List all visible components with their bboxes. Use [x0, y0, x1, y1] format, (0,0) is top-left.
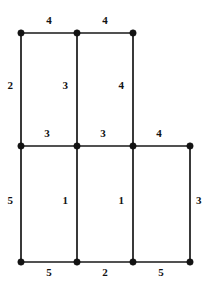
- edge-weight-i-j: 2: [85, 267, 125, 278]
- edge-weight-g-k: 3: [196, 195, 202, 206]
- edge-weight-j-k: 5: [141, 267, 181, 278]
- edge-weight-e-i: 1: [38, 195, 68, 206]
- edge-weight-f-g: 4: [139, 128, 179, 139]
- edge-weight-h-i: 5: [29, 267, 69, 278]
- graph-node-g: [187, 143, 193, 149]
- edge-weight-d-e: 3: [27, 128, 67, 139]
- graph-node-j: [130, 259, 136, 265]
- graph-node-a: [18, 30, 24, 36]
- edge-weight-a-b: 4: [29, 15, 69, 26]
- graph-node-i: [74, 259, 80, 265]
- graph-node-f: [130, 143, 136, 149]
- edge-weight-b-e: 3: [38, 80, 68, 91]
- graph-node-h: [18, 259, 24, 265]
- graph-node-d: [18, 143, 24, 149]
- edge-weight-a-d: 2: [0, 80, 13, 91]
- edges-group: [21, 33, 190, 262]
- graph-node-e: [74, 143, 80, 149]
- edge-weight-f-j: 1: [94, 195, 124, 206]
- edge-weight-c-f: 4: [94, 80, 124, 91]
- graph-node-b: [74, 30, 80, 36]
- edge-weight-b-c: 4: [85, 15, 125, 26]
- nodes-group: [18, 30, 193, 265]
- edge-weight-d-h: 5: [0, 195, 13, 206]
- graph-figure: 442343345113525: [0, 0, 212, 290]
- graph-node-c: [130, 30, 136, 36]
- graph-canvas: [0, 0, 212, 290]
- edge-weight-e-f: 3: [83, 128, 123, 139]
- graph-node-k: [187, 259, 193, 265]
